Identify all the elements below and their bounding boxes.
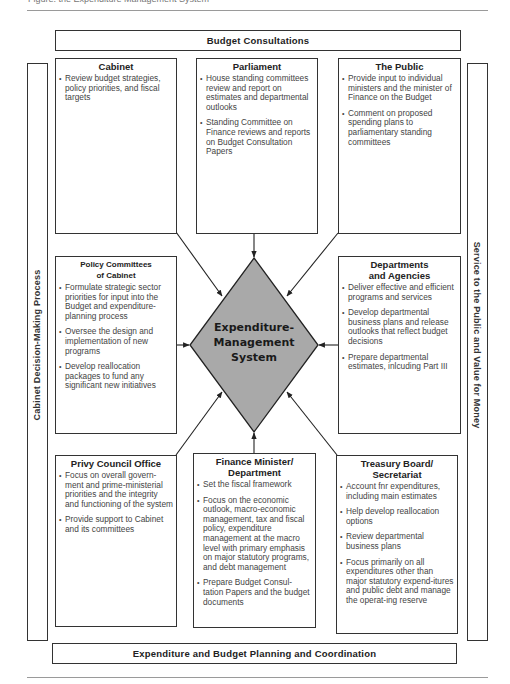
list-item: Deliver effective and efficient programs… [342, 283, 457, 302]
list-item: Help develop reallocation options [340, 507, 454, 526]
parliament-title: Parliament [200, 61, 314, 72]
planning-coordination-label: Expenditure and Budget Planning and Coor… [133, 648, 376, 659]
list-item: Oversee the design and implementation of… [59, 327, 173, 356]
list-item: House standing committees review and rep… [200, 74, 314, 112]
list-item: Focus on the economic outlook, macro-eco… [197, 496, 312, 573]
list-item: Review budget strategies, policy priorit… [59, 74, 173, 103]
list-item: Review departmental business plans [340, 532, 454, 551]
cabinet-box: Cabinet Review budget strategies, policy… [55, 58, 177, 234]
center-label-line: Management [196, 335, 312, 350]
bottom-rule [27, 677, 488, 678]
policy-committees-title: Policy Committees of Cabinet [59, 259, 173, 281]
parliament-box: Parliament House standing committees rev… [196, 58, 318, 234]
center-label-line: System [196, 350, 312, 365]
list-item: Standing Committee on Finance reviews an… [200, 118, 314, 156]
list-item: Set the fiscal framework [197, 480, 312, 490]
center-label-line: Expenditure- [196, 320, 312, 335]
treasury-title: Treasury Board/ Secretariat [340, 458, 454, 480]
list-item: Prepare departmental estimates, inlcudin… [342, 353, 457, 372]
public-title: The Public [342, 61, 457, 72]
list-item: Provide support to Cabinet and its commi… [59, 515, 173, 534]
privy-council-box: Privy Council Office Focus on overall go… [55, 455, 177, 627]
list-item: Formulate strategic sector priorities fo… [59, 283, 173, 321]
public-box: The Public Provide input to individual m… [338, 58, 461, 234]
list-item: Provide input to individual ministers an… [342, 74, 457, 103]
departments-title: Departments and Agencies [342, 259, 457, 281]
finance-box: Finance Minister/ Department Set the fis… [193, 453, 316, 628]
list-item: Focus on overall govern-ment and prime-m… [59, 471, 173, 509]
list-item: Prepare Budget Consul-tation Papers and … [197, 578, 312, 607]
finance-title: Finance Minister/ Department [197, 456, 312, 478]
treasury-box: Treasury Board/ Secretariat Account fnr … [336, 455, 458, 634]
list-item: Account fnr expenditures, including main… [340, 482, 454, 501]
list-item: Focus primarily on all expenditures othe… [340, 558, 454, 606]
cabinet-title: Cabinet [59, 61, 173, 72]
list-item: Develop departmental business plans and … [342, 308, 457, 346]
list-item: Develop reallocation packages to fund an… [59, 362, 173, 391]
departments-box: Departments and Agencies Deliver effecti… [338, 256, 461, 434]
planning-coordination-band: Expenditure and Budget Planning and Coor… [52, 643, 457, 664]
expenditure-management-system-label: Expenditure- Management System [196, 320, 312, 365]
policy-committees-box: Policy Committees of Cabinet Formulate s… [55, 256, 177, 434]
list-item: Comment on proposed spending plans to pa… [342, 109, 457, 147]
privy-council-title: Privy Council Office [59, 458, 173, 469]
